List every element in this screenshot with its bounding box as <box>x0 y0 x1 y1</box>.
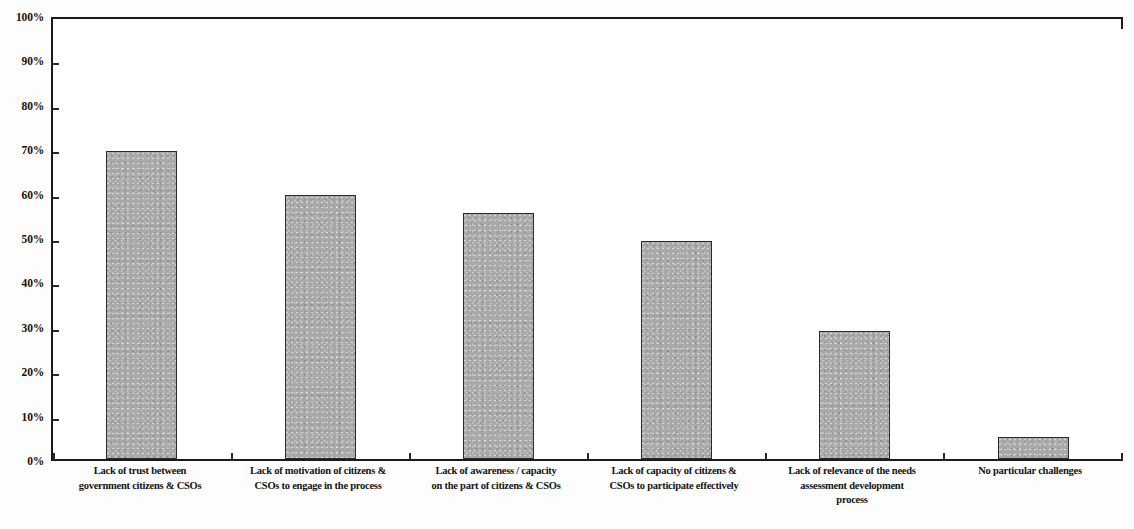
x-label-line: CSOs to participate effectively <box>577 479 771 494</box>
x-label-lack-of-trust: Lack of trust between government citizen… <box>43 464 237 493</box>
x-label-no-particular-challenges: No particular challenges <box>933 464 1127 479</box>
y-tick-label-30: 30% <box>22 322 44 334</box>
y-tick-label-90: 90% <box>22 55 44 67</box>
x-label-line: Lack of capacity of citizens & <box>577 464 771 479</box>
bar-lack-of-awareness <box>463 213 534 459</box>
bar-lack-of-relevance <box>819 331 890 459</box>
bar-lack-of-motivation <box>285 195 356 459</box>
x-label-lack-of-relevance: Lack of relevance of the needs assessmen… <box>755 464 949 508</box>
y-axis: 100% 90% 80% 70% 60% 50% 40% 30% 20% 10%… <box>0 0 46 470</box>
x-axis-labels: Lack of trust between government citizen… <box>51 464 1123 528</box>
y-tick-label-40: 40% <box>22 277 44 289</box>
x-label-lack-of-awareness: Lack of awareness / capacity on the part… <box>399 464 593 493</box>
x-label-line: Lack of motivation of citizens & <box>221 464 415 479</box>
bar-chart: 100% 90% 80% 70% 60% 50% 40% 30% 20% 10%… <box>0 0 1134 529</box>
y-tick-label-100: 100% <box>16 11 44 23</box>
x-label-lack-of-capacity: Lack of capacity of citizens & CSOs to p… <box>577 464 771 493</box>
x-label-line: Lack of trust between <box>43 464 237 479</box>
y-tick-label-50: 50% <box>22 233 44 245</box>
y-tick-label-60: 60% <box>22 189 44 201</box>
y-tick-label-70: 70% <box>22 144 44 156</box>
plot-area <box>51 17 1123 461</box>
y-tick-label-10: 10% <box>22 411 44 423</box>
bar-no-particular-challenges <box>998 437 1069 459</box>
x-label-lack-of-motivation: Lack of motivation of citizens & CSOs to… <box>221 464 415 493</box>
bar-lack-of-trust <box>106 151 177 459</box>
x-label-line: government citizens & CSOs <box>43 479 237 494</box>
bar-lack-of-capacity <box>641 241 712 459</box>
x-label-line: Lack of awareness / capacity <box>399 464 593 479</box>
y-tick-label-80: 80% <box>22 100 44 112</box>
y-tick-label-0: 0% <box>27 455 44 467</box>
x-label-line: Lack of relevance of the needs <box>755 464 949 479</box>
bars-layer <box>53 19 1123 459</box>
x-label-line: No particular challenges <box>933 464 1127 479</box>
x-label-line: CSOs to engage in the process <box>221 479 415 494</box>
x-label-line: assessment development <box>755 479 949 494</box>
y-tick-label-20: 20% <box>22 366 44 378</box>
x-label-line: on the part of citizens & CSOs <box>399 479 593 494</box>
x-label-line: process <box>755 493 949 508</box>
